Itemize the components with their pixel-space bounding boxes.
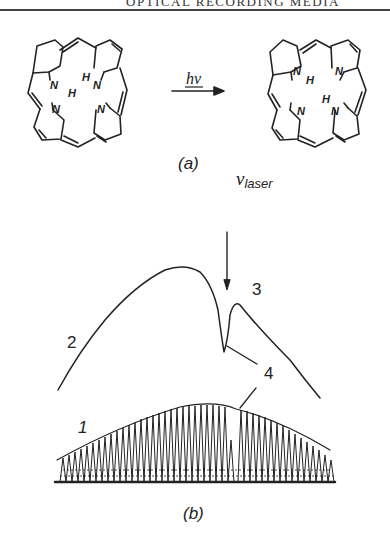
curve-label-4: 4: [264, 364, 273, 384]
atom-h: H: [82, 71, 91, 83]
atom-n: N: [293, 65, 302, 77]
atom-n: N: [93, 79, 102, 91]
porphyrin-left: [28, 38, 127, 147]
reaction-label-hv: hν: [186, 70, 202, 87]
atom-n: N: [297, 105, 306, 117]
atom-n: N: [331, 105, 340, 117]
reaction-arrow: [172, 87, 224, 95]
atom-h: H: [68, 87, 77, 99]
curve-label-2: 2: [67, 333, 76, 353]
porphyrin-right: [268, 40, 366, 147]
laser-subscript: laser: [244, 176, 272, 191]
caption-b: (b): [183, 504, 204, 524]
pointer-4-upper: [227, 346, 257, 364]
caption-a: (a): [178, 154, 199, 174]
atom-h: H: [306, 74, 315, 86]
curve-label-3: 3: [252, 280, 261, 300]
atom-h: H: [322, 93, 331, 105]
fringe-pattern: [60, 405, 334, 482]
curve-2-absorption: [58, 267, 320, 398]
atom-n: N: [52, 103, 61, 115]
atom-n: N: [335, 65, 344, 77]
atom-n: N: [50, 79, 59, 91]
curve-label-1: 1: [78, 418, 87, 438]
laser-frequency-label: νlaser: [236, 168, 273, 191]
figure-canvas: N H H N N N N H N H N N hν: [0, 0, 390, 537]
pointer-4-lower: [240, 388, 256, 408]
laser-arrowhead: [224, 280, 230, 290]
atom-n: N: [97, 103, 106, 115]
